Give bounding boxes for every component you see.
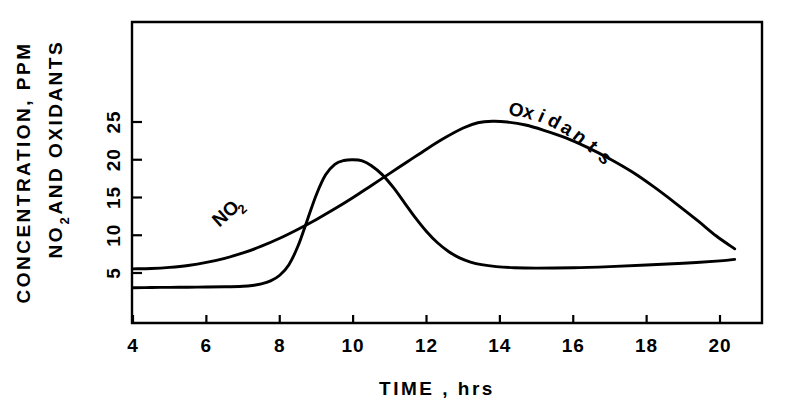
chart-canvas: 468101214161820510152025 TIME , hrsCONCE… xyxy=(0,0,800,419)
tick-labels: 468101214161820510152025 xyxy=(103,110,732,356)
x-tick-label: 6 xyxy=(201,335,213,356)
y-axis-title-line2-main: NO xyxy=(45,225,66,259)
x-tick-label: 16 xyxy=(562,335,585,356)
y-tick-label: 15 xyxy=(103,186,124,209)
x-tick-label: 12 xyxy=(415,335,438,356)
y-axis-title-line2-subscript: 2 xyxy=(57,217,72,224)
x-tick-label: 14 xyxy=(488,335,511,356)
series-label-no2-main: NO xyxy=(208,196,243,231)
plot-frame xyxy=(132,22,762,323)
y-axis-title-line1: CONCENTRATION, PPM xyxy=(13,41,34,303)
y-tick-label: 5 xyxy=(103,267,124,279)
chart-figure: 468101214161820510152025 TIME , hrsCONCE… xyxy=(0,0,800,419)
plot-axes xyxy=(132,22,762,323)
series-label-no2: NO2 xyxy=(208,193,250,235)
x-tick-label: 10 xyxy=(342,335,365,356)
series-curve-oxidants xyxy=(133,121,735,269)
series-label-oxidants: Oxidants xyxy=(506,98,616,169)
series-label-oxidants-glyph: s xyxy=(594,147,617,169)
y-axis-title-line2-tail: AND OXIDANTS xyxy=(45,40,66,215)
x-tick-label: 4 xyxy=(127,335,139,356)
x-axis-title: TIME , hrs xyxy=(379,378,495,399)
x-tick-label: 8 xyxy=(274,335,286,356)
x-tick-label: 18 xyxy=(635,335,658,356)
y-tick-label: 25 xyxy=(103,110,124,133)
y-tick-label: 20 xyxy=(103,148,124,171)
y-tick-label: 10 xyxy=(103,224,124,247)
y-axis-title-line2: NO2 AND OXIDANTS xyxy=(45,40,72,259)
x-tick-label: 20 xyxy=(708,335,731,356)
